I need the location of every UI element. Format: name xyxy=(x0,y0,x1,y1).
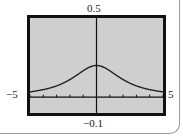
x-max-label: 5 xyxy=(168,89,174,100)
y-max-label: 0.5 xyxy=(87,3,101,14)
x-min-label: −5 xyxy=(6,89,18,100)
y-min-label: −0.1 xyxy=(83,118,103,129)
